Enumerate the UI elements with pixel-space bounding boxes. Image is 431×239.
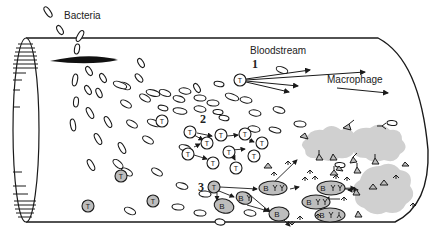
step-1-number: 1 — [252, 57, 258, 72]
svg-text:T: T — [151, 198, 156, 205]
macrophage-arrow-icon — [337, 88, 388, 93]
svg-text:B: B — [274, 210, 279, 219]
svg-text:B: B — [238, 194, 243, 203]
svg-text:B: B — [306, 198, 311, 207]
svg-text:T: T — [238, 77, 243, 84]
macrophage-label: Macrophage — [327, 74, 383, 85]
bacteria-label: Bacteria — [64, 10, 101, 21]
svg-text:B: B — [263, 184, 268, 193]
svg-text:T: T — [227, 149, 232, 156]
svg-text:T: T — [119, 173, 124, 180]
diagram-canvas: T T — [0, 0, 431, 239]
svg-text:T: T — [211, 160, 216, 167]
svg-text:T: T — [234, 165, 239, 172]
svg-text:T: T — [188, 129, 193, 136]
svg-text:T: T — [86, 203, 91, 210]
svg-text:B: B — [219, 202, 224, 211]
svg-text:B: B — [320, 184, 325, 193]
t-cells-gray: T T T — [82, 170, 159, 212]
svg-text:T: T — [252, 153, 257, 160]
svg-text:T: T — [219, 132, 224, 139]
svg-text:T: T — [205, 140, 210, 147]
svg-text:T: T — [243, 131, 248, 138]
step-2-number: 2 — [200, 112, 206, 127]
svg-text:T: T — [160, 118, 165, 125]
svg-text:T: T — [212, 184, 217, 191]
immune-response-diagram: T T — [0, 0, 431, 239]
step-3-number: 3 — [198, 180, 204, 195]
wound-entry-icon — [50, 56, 118, 63]
bloodstream-label: Bloodstream — [250, 45, 306, 56]
svg-text:T: T — [186, 151, 191, 158]
svg-text:T: T — [260, 140, 265, 147]
step-2-t-cells: T T T T T T T T T T T — [156, 115, 268, 174]
